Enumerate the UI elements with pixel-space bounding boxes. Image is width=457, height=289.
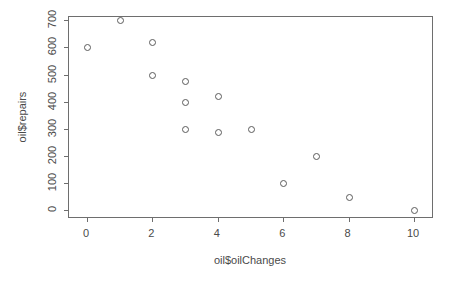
y-axis-tick-label: 300	[46, 119, 58, 137]
data-point	[280, 180, 287, 187]
scatter-plot-figure: oil$repairs oil$oilChanges 0100200300400…	[0, 0, 457, 289]
x-axis-tick-label: 2	[148, 227, 154, 239]
data-point	[149, 72, 156, 79]
x-axis-tick	[87, 217, 88, 222]
x-axis-tick-label: 4	[214, 227, 220, 239]
y-axis-tick	[64, 129, 69, 130]
y-axis-tick-label: 500	[46, 64, 58, 82]
data-point	[215, 129, 222, 136]
data-points-layer	[69, 17, 432, 217]
x-axis-title: oil$oilChanges	[214, 254, 286, 266]
x-axis-tick-label: 0	[83, 227, 89, 239]
y-axis-tick	[64, 156, 69, 157]
x-axis-tick	[152, 217, 153, 222]
data-point	[182, 126, 189, 133]
plot-area	[68, 16, 433, 218]
data-point	[182, 99, 189, 106]
data-point	[248, 126, 255, 133]
y-axis-tick-label: 700	[46, 10, 58, 28]
x-axis-tick	[283, 217, 284, 222]
y-axis-tick-label: 0	[46, 206, 58, 212]
data-point	[84, 44, 91, 51]
x-axis-tick	[414, 217, 415, 222]
data-point	[215, 93, 222, 100]
data-point	[117, 17, 124, 24]
y-axis-tick-label: 400	[46, 91, 58, 109]
x-axis-tick	[349, 217, 350, 222]
x-axis-tick-label: 6	[279, 227, 285, 239]
x-axis-tick-label: 10	[407, 227, 419, 239]
data-point	[411, 207, 418, 214]
x-axis-tick-label: 8	[345, 227, 351, 239]
y-axis-tick	[64, 47, 69, 48]
y-axis-tick-label: 600	[46, 37, 58, 55]
data-point	[313, 153, 320, 160]
y-axis-tick-label: 200	[46, 146, 58, 164]
data-point	[149, 39, 156, 46]
y-axis-tick-label: 100	[46, 173, 58, 191]
y-axis-title: oil$repairs	[16, 92, 28, 143]
data-point	[182, 78, 189, 85]
y-axis-tick	[64, 183, 69, 184]
y-axis-tick	[64, 75, 69, 76]
y-axis-tick	[64, 210, 69, 211]
y-axis-tick	[64, 20, 69, 21]
data-point	[346, 194, 353, 201]
y-axis-tick	[64, 102, 69, 103]
x-axis-tick	[218, 217, 219, 222]
